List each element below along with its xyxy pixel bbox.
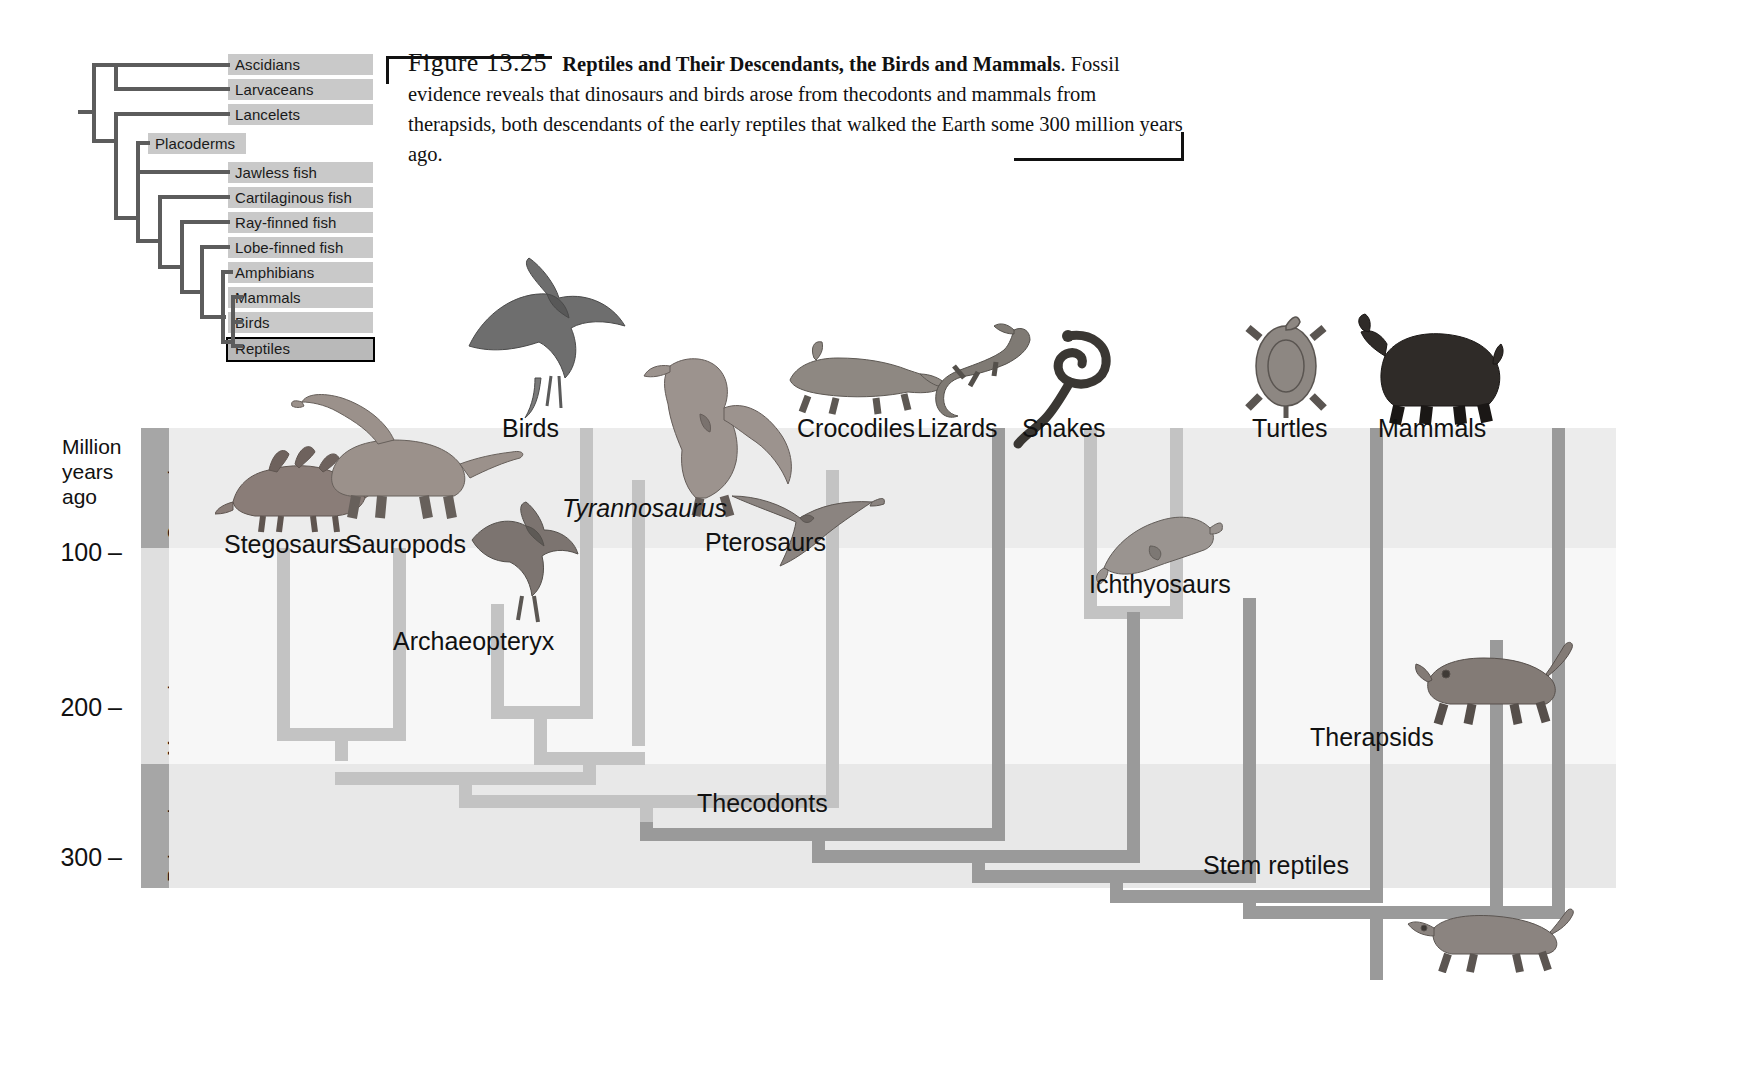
- clado-branch-v7: [221, 270, 225, 344]
- clado-item-jawless-fish: Jawless fish: [228, 162, 373, 183]
- clado-item-larvaceans: Larvaceans: [228, 79, 373, 100]
- era-mesozoic: Mesozoic: [141, 548, 169, 764]
- branch-turtles: [1370, 428, 1383, 898]
- clado-item-cartilaginous-fish: Cartilaginous fish: [228, 187, 373, 208]
- clado-branch-reptiles: [231, 344, 243, 348]
- figure-number: Figure 13.25: [408, 48, 547, 77]
- tip-label-mammals: Mammals: [1378, 414, 1486, 443]
- branch-stegosaurs: [277, 548, 290, 728]
- figure-caption: Figure 13.25 Reptiles and Their Descenda…: [386, 48, 1186, 169]
- inner-label-pterosaurs: Pterosaurs: [705, 528, 826, 557]
- clado-item-ray-finned-fish: Ray-finned fish: [228, 212, 373, 233]
- turtle-illustration: [1240, 308, 1332, 420]
- inner-label-archaeopteryx: Archaeopteryx: [393, 627, 554, 656]
- clado-branch-lobefinned: [200, 245, 230, 249]
- axis-title-line2: years: [62, 459, 150, 484]
- stem-reptile-illustration: [1400, 898, 1575, 973]
- inner-label-tyrannosaurus: Tyrannosaurus: [562, 494, 727, 523]
- clado-item-birds: Birds: [228, 312, 373, 333]
- caption-rule-left: [386, 56, 389, 84]
- branch-stem-squamata: [1127, 612, 1140, 850]
- clado-branch-ascidians: [114, 63, 230, 67]
- inner-label-stegosaurs: Stegosaurs: [224, 530, 350, 559]
- branch-crocodiles: [992, 428, 1005, 836]
- clado-branch-jawless: [136, 170, 230, 174]
- therapsid-illustration: [1410, 632, 1575, 727]
- axis-title: Million years ago: [62, 434, 150, 509]
- caption-rule-top: [386, 56, 552, 59]
- clado-branch-lancelets: [114, 112, 230, 116]
- clado-branch-birds: [231, 320, 243, 324]
- era-cenozoic: Cenozoic: [141, 428, 169, 548]
- caption-rule-right: [1181, 132, 1184, 161]
- figure-page: Ascidians Larvaceans Lancelets Placoderm…: [0, 0, 1761, 1083]
- clado-item-ascidians: Ascidians: [228, 54, 373, 75]
- axis-tick-300: 300–: [30, 843, 122, 872]
- caption-rule-bottom: [1014, 158, 1184, 161]
- clado-branch-v5: [180, 220, 184, 294]
- axis-title-line3: ago: [62, 484, 150, 509]
- figure-title: Reptiles and Their Descendants, the Bird…: [562, 53, 1060, 75]
- era-paleozoic: Paleozoic: [141, 764, 169, 888]
- clado-item-lobe-finned-fish: Lobe-finned fish: [228, 237, 373, 258]
- branch-stem-sauropodomorph: [335, 735, 348, 761]
- clado-item-placoderms: Placoderms: [148, 133, 246, 154]
- tip-label-lizards: Lizards: [917, 414, 998, 443]
- clado-branch-larvaceans: [114, 87, 230, 91]
- inner-label-thecodonts: Thecodonts: [697, 789, 828, 818]
- clado-branch-cartilaginous: [158, 195, 230, 199]
- branch-ichthyosaurs: [1243, 598, 1256, 876]
- axis-tick-100: 100–: [30, 538, 122, 567]
- clado-branch-rayfinned: [180, 220, 230, 224]
- inner-label-ichthyosaurs: Ichthyosaurs: [1089, 570, 1231, 599]
- tip-label-birds: Birds: [502, 414, 559, 443]
- inner-label-therapsids: Therapsids: [1310, 723, 1434, 752]
- era-bar: Cenozoic Mesozoic Paleozoic: [141, 428, 169, 888]
- clado-branch-v4: [158, 195, 162, 269]
- axis-tick-200: 200–: [30, 693, 122, 722]
- clado-item-lancelets: Lancelets: [228, 104, 373, 125]
- inner-label-stem-reptiles: Stem reptiles: [1203, 851, 1349, 880]
- caption-text: Figure 13.25 Reptiles and Their Descenda…: [386, 48, 1186, 169]
- clado-branch-v2: [114, 112, 118, 220]
- cladogram-inset: Ascidians Larvaceans Lancelets Placoderm…: [78, 48, 378, 368]
- clado-item-reptiles: Reptiles: [226, 337, 375, 362]
- clado-branch-v6: [200, 245, 204, 319]
- clado-item-mammals: Mammals: [228, 287, 373, 308]
- tip-label-turtles: Turtles: [1252, 414, 1327, 443]
- axis-title-line1: Million: [62, 434, 150, 459]
- inner-label-sauropods: Sauropods: [345, 530, 466, 559]
- clado-item-amphibians: Amphibians: [228, 262, 373, 283]
- bear-illustration: [1355, 312, 1505, 427]
- tip-label-crocodiles: Crocodiles: [797, 414, 915, 443]
- tip-label-snakes: Snakes: [1022, 414, 1105, 443]
- clado-branch-placoderms: [136, 141, 150, 145]
- clado-branch-v0: [92, 63, 96, 143]
- clado-branch-v3: [136, 141, 140, 243]
- branch-stem-reptiles: [1370, 912, 1383, 980]
